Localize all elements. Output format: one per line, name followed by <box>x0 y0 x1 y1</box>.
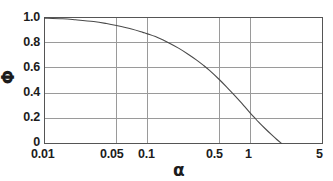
y-tick-label-1: 1.0 <box>4 10 40 24</box>
x-tick-label-3: 0.1 <box>138 147 155 161</box>
x-tick-label-4: 0.5 <box>206 147 223 161</box>
x-tick-label-2: 0.05 <box>100 147 124 161</box>
y-tick-label-5: 0.2 <box>4 110 40 124</box>
x-tick-label-1: 0.01 <box>31 147 55 161</box>
x-axis-title: α <box>173 160 185 180</box>
y-tick-label-2: 0.8 <box>4 35 40 49</box>
vertical-gridlines <box>116 18 250 144</box>
y-axis-title: Φ <box>0 70 18 84</box>
data-curve <box>45 18 282 143</box>
x-tick-label-6: 5 <box>316 147 323 161</box>
chart-figure: 1.0 0.8 0.6 0.4 0.2 0 0.01 0.05 0.1 0.5 … <box>0 0 333 181</box>
x-tick-label-5: 1 <box>245 147 252 161</box>
plot-frame <box>45 18 323 144</box>
horizontal-gridlines <box>45 43 323 119</box>
y-tick-label-4: 0.4 <box>4 85 40 99</box>
